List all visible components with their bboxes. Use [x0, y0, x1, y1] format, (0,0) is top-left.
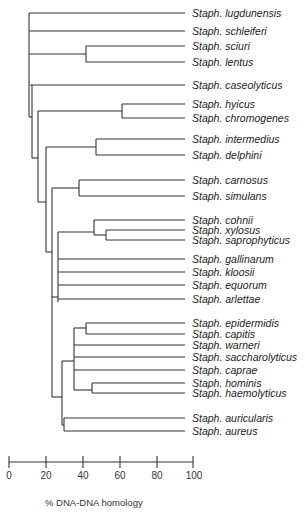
taxon-label: Staph. carnosus — [192, 174, 268, 186]
taxon-label: Staph. caprae — [192, 364, 257, 376]
taxon-label: Staph. gallinarum — [192, 253, 274, 265]
tree-branches — [29, 13, 185, 431]
taxon-label: Staph. sciuri — [192, 40, 250, 52]
taxon-label: Staph. equorum — [192, 279, 267, 291]
taxon-label: Staph. saccharolyticus — [192, 351, 297, 363]
tick-label: 100 — [186, 470, 203, 481]
taxon-label: Staph. caseolyticus — [192, 79, 282, 91]
tick-label: 40 — [77, 470, 88, 481]
taxon-label: Staph. intermedius — [192, 133, 280, 145]
taxon-label: Staph. kloosii — [192, 266, 254, 278]
axis-title: % DNA-DNA homology — [45, 497, 143, 508]
tick-label: 20 — [40, 470, 51, 481]
taxon-label: Staph. aureus — [192, 425, 257, 437]
taxon-label: Staph. saprophyticus — [192, 234, 290, 246]
tick-label: 0 — [6, 470, 12, 481]
taxon-label: Staph. arlettae — [192, 293, 260, 305]
tick-label: 80 — [151, 470, 162, 481]
taxon-label: Staph. schleiferi — [192, 25, 267, 37]
taxon-label: Staph. haemolyticus — [192, 387, 287, 399]
tick-label: 60 — [114, 470, 125, 481]
taxon-label: Staph. chromogenes — [192, 112, 289, 124]
taxon-label: Staph. delphini — [192, 149, 261, 161]
taxon-label: Staph. auricularis — [192, 412, 273, 424]
scale-axis — [9, 456, 193, 468]
taxon-label: Staph. lugdunensis — [192, 7, 281, 19]
taxon-label: Staph. warneri — [192, 339, 260, 351]
taxon-label: Staph. hyicus — [192, 98, 255, 110]
taxon-label: Staph. lentus — [192, 56, 253, 68]
taxon-label: Staph. simulans — [192, 190, 267, 202]
